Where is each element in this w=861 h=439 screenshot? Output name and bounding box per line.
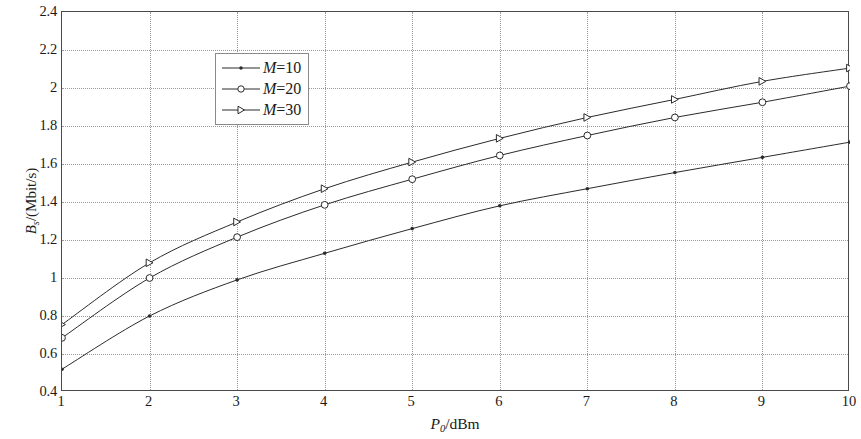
data-point-marker-triangle bbox=[759, 78, 766, 86]
data-point-marker-dot bbox=[673, 171, 677, 175]
data-point-marker-dot bbox=[761, 156, 765, 160]
data-point-marker-dot bbox=[148, 314, 152, 318]
x-tick-label: 5 bbox=[391, 393, 431, 410]
series-line bbox=[62, 86, 850, 338]
data-point-marker-dot bbox=[848, 140, 850, 144]
legend-label-0: M=10 bbox=[261, 59, 301, 77]
data-point-marker-triangle bbox=[671, 96, 678, 104]
x-tick-label: 7 bbox=[566, 393, 606, 410]
data-point-marker-circle bbox=[62, 334, 65, 341]
legend-item[interactable]: M=20 bbox=[221, 78, 301, 99]
y-tick-label: 2.4 bbox=[3, 4, 57, 19]
x-tick-label: 8 bbox=[654, 393, 694, 410]
data-point-marker-dot bbox=[586, 187, 590, 191]
x-axis-unit: /dBm bbox=[445, 415, 479, 432]
x-tick-label: 4 bbox=[304, 393, 344, 410]
x-tick-label: 6 bbox=[479, 393, 519, 410]
data-point-marker-triangle bbox=[409, 158, 416, 166]
x-tick-label: 1 bbox=[41, 393, 81, 410]
legend-label-2: M=30 bbox=[261, 101, 301, 119]
data-point-marker-dot bbox=[410, 227, 414, 231]
series-layer bbox=[62, 12, 848, 390]
legend-marker-triangle-icon bbox=[221, 103, 261, 117]
data-point-marker-dot bbox=[235, 278, 239, 282]
y-tick-label: 2.2 bbox=[3, 42, 57, 57]
y-tick-label: 1.4 bbox=[3, 194, 57, 209]
y-tick-label: 1 bbox=[3, 270, 57, 285]
data-point-marker-triangle bbox=[234, 218, 241, 226]
data-point-marker-triangle bbox=[321, 185, 328, 193]
data-point-marker-triangle bbox=[496, 135, 503, 143]
data-point-marker-triangle bbox=[146, 259, 153, 267]
legend-marker-dot-icon bbox=[221, 61, 261, 75]
data-point-marker-circle bbox=[584, 132, 591, 139]
series-m10 bbox=[62, 140, 850, 371]
chart-svg bbox=[62, 12, 850, 392]
y-tick-label: 1.6 bbox=[3, 156, 57, 171]
y-tick-label: 0.8 bbox=[3, 308, 57, 323]
x-tick-label: 10 bbox=[829, 393, 861, 410]
data-point-marker-circle bbox=[321, 201, 328, 208]
plot-area: M=10 M=20 M=30 bbox=[61, 11, 849, 391]
series-line bbox=[62, 68, 850, 325]
legend[interactable]: M=10 M=20 M=30 bbox=[215, 53, 309, 125]
x-axis-tick-labels: 12345678910 bbox=[61, 393, 849, 415]
x-axis-symbol: P bbox=[430, 415, 439, 432]
y-axis-tick-labels: 0.40.60.811.21.41.61.822.22.4 bbox=[0, 11, 57, 391]
series-m30 bbox=[62, 64, 850, 328]
x-tick-label: 9 bbox=[741, 393, 781, 410]
data-point-marker-circle bbox=[847, 83, 850, 90]
y-tick-label: 1.8 bbox=[3, 118, 57, 133]
data-point-marker-circle bbox=[146, 275, 153, 282]
data-point-marker-triangle bbox=[847, 64, 850, 72]
y-tick-label: 0.6 bbox=[3, 346, 57, 361]
legend-label-1: M=20 bbox=[261, 80, 301, 98]
data-point-marker-circle bbox=[409, 176, 416, 183]
x-axis-title: P0/dBm bbox=[61, 415, 849, 434]
y-tick-label: 1.2 bbox=[3, 232, 57, 247]
data-point-marker-circle bbox=[234, 234, 241, 241]
series-line bbox=[62, 142, 850, 369]
data-point-marker-dot bbox=[498, 204, 502, 208]
x-tick-label: 3 bbox=[216, 393, 256, 410]
legend-marker-circle-icon bbox=[221, 82, 261, 96]
data-point-marker-dot bbox=[323, 252, 327, 256]
series-m20 bbox=[62, 83, 850, 342]
x-tick-label: 2 bbox=[129, 393, 169, 410]
data-point-marker-circle bbox=[759, 99, 766, 106]
data-point-marker-triangle bbox=[584, 114, 591, 122]
legend-item[interactable]: M=30 bbox=[221, 99, 301, 120]
data-point-marker-circle bbox=[496, 152, 503, 159]
legend-item[interactable]: M=10 bbox=[221, 57, 301, 78]
data-point-marker-circle bbox=[671, 114, 678, 121]
y-tick-label: 2 bbox=[3, 80, 57, 95]
